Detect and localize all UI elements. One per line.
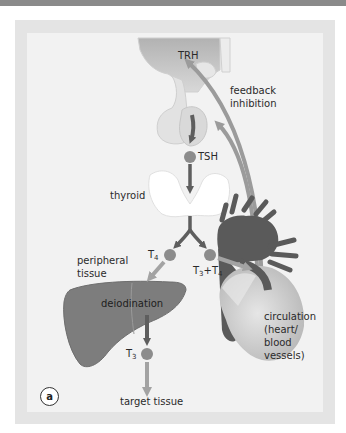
t4-hormone-circle bbox=[164, 249, 176, 261]
circulation-label: circulation bbox=[264, 311, 316, 323]
diagram-art bbox=[0, 0, 346, 433]
t4-to-liver-arrow bbox=[150, 262, 164, 278]
tsh-hormone-circle bbox=[184, 151, 196, 163]
peripheral-label: peripheral bbox=[77, 255, 128, 267]
thyroid-to-t4-arrow bbox=[176, 230, 190, 246]
t3-hormone-circle bbox=[141, 348, 153, 360]
panel-label-badge: a bbox=[40, 387, 59, 406]
heart-label: (heart/ bbox=[264, 324, 298, 336]
blood-label: blood bbox=[264, 337, 292, 349]
t3t4-label: T3+T4 bbox=[193, 265, 223, 280]
vessels-label: vessels) bbox=[264, 350, 305, 362]
tsh-label: TSH bbox=[198, 151, 218, 163]
trh-label: TRH bbox=[178, 50, 199, 62]
hypothalamus-shape bbox=[138, 38, 230, 92]
t3-label: T3 bbox=[126, 348, 137, 363]
liver-shape bbox=[64, 281, 186, 366]
tissue-label: tissue bbox=[77, 268, 107, 280]
t4-label: T4 bbox=[148, 249, 159, 264]
target-tissue-label: target tissue bbox=[120, 396, 183, 408]
inhibition-label: inhibition bbox=[230, 98, 277, 110]
t3t4-hormone-circle bbox=[204, 249, 216, 261]
feedback-label: feedback bbox=[230, 85, 276, 97]
thyroid-to-t3t4-arrow bbox=[190, 230, 204, 246]
deiodination-label: deiodination bbox=[101, 298, 163, 310]
pituitary-to-tsh-arrow bbox=[191, 115, 193, 140]
thyroid-label: thyroid bbox=[110, 190, 145, 202]
